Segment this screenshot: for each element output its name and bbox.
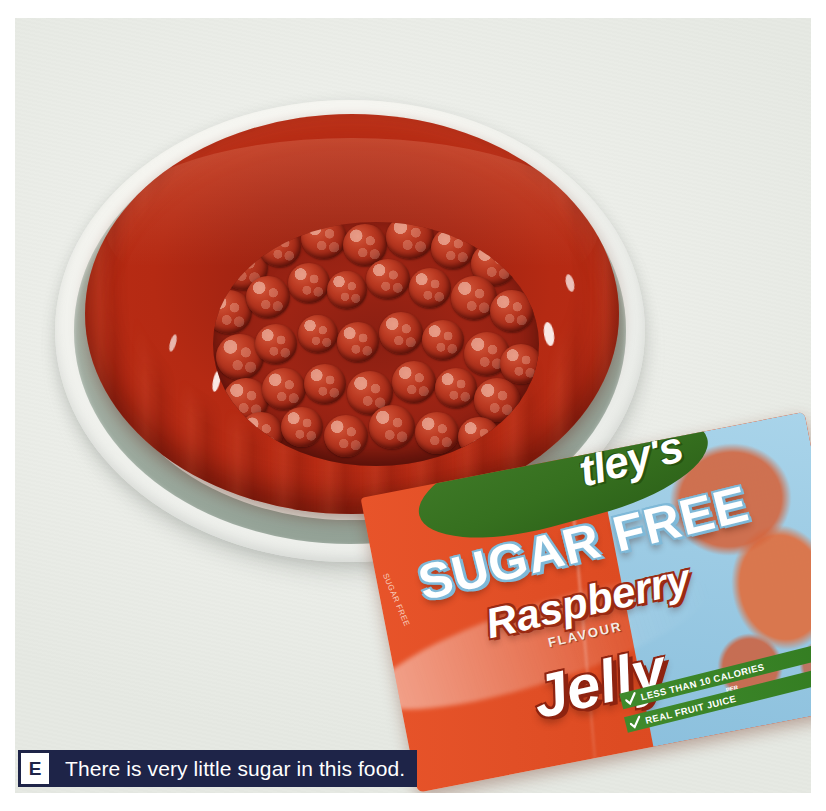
raspberry — [298, 315, 338, 353]
page-root: tley's SUGAR FREE Raspberry FLAVOUR Jell… — [0, 0, 826, 811]
raspberry — [327, 271, 367, 309]
raspberry — [379, 312, 423, 354]
raspberry — [386, 222, 434, 259]
raspberry-filling — [213, 222, 539, 466]
check-icon — [628, 715, 643, 730]
raspberry — [337, 322, 379, 362]
raspberry — [500, 344, 539, 384]
raspberry — [259, 227, 301, 267]
raspberry — [415, 412, 459, 454]
raspberry — [490, 290, 534, 332]
raspberry — [246, 276, 290, 318]
raspberry — [422, 320, 464, 360]
check-icon — [624, 692, 639, 707]
jelly-ring — [85, 114, 619, 514]
caption-text: There is very little sugar in this food. — [52, 750, 405, 787]
raspberry — [366, 259, 410, 299]
raspberry — [304, 364, 346, 404]
food-photograph: tley's SUGAR FREE Raspberry FLAVOUR Jell… — [15, 18, 811, 793]
raspberry — [474, 378, 520, 422]
raspberry — [431, 227, 475, 269]
raspberry — [409, 268, 451, 308]
raspberry — [255, 324, 297, 364]
raspberry — [301, 222, 347, 259]
raspberry — [281, 407, 323, 447]
raspberry — [324, 415, 368, 457]
caption-bar: E There is very little sugar in this foo… — [18, 750, 417, 787]
raspberry — [369, 405, 415, 449]
raspberry — [262, 368, 306, 410]
raspberry — [392, 361, 436, 403]
raspberry — [435, 368, 477, 408]
raspberry — [458, 417, 500, 457]
raspberry — [288, 263, 330, 303]
caption-letter-badge: E — [21, 753, 49, 784]
